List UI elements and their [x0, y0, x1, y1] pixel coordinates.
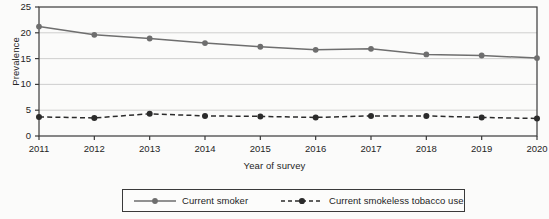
data-point — [202, 113, 208, 119]
data-point — [91, 32, 97, 38]
data-point — [534, 55, 540, 61]
data-point — [36, 114, 42, 120]
legend-label-current-smoker: Current smoker — [182, 195, 248, 206]
series-line-1 — [39, 114, 537, 119]
data-point — [313, 114, 319, 120]
data-point — [147, 36, 153, 42]
data-point — [423, 113, 429, 119]
data-point — [202, 40, 208, 46]
plot-area — [0, 0, 549, 219]
legend-label-current-smokeless-tobacco-use: Current smokeless tobacco use — [329, 195, 464, 206]
data-point — [479, 114, 485, 120]
series-line-0 — [39, 27, 537, 58]
data-point — [368, 113, 374, 119]
data-point — [257, 113, 263, 119]
data-point — [534, 115, 540, 121]
data-point — [36, 24, 42, 30]
legend-item-current-smokeless-tobacco-use: Current smokeless tobacco use — [280, 190, 464, 211]
data-point — [257, 44, 263, 50]
data-point — [147, 111, 153, 117]
chart-legend: Current smoker Current smokeless tobacco… — [122, 189, 465, 212]
legend-key-dashed-line-icon — [280, 196, 324, 206]
data-point — [479, 53, 485, 59]
legend-key-solid-line-icon — [133, 196, 177, 206]
line-chart-figure: Prevalence Year of survey 0510152025 201… — [0, 0, 549, 219]
data-point — [91, 115, 97, 121]
legend-item-current-smoker: Current smoker — [133, 190, 248, 211]
data-point — [368, 46, 374, 52]
data-point — [423, 52, 429, 58]
data-point — [313, 47, 319, 53]
